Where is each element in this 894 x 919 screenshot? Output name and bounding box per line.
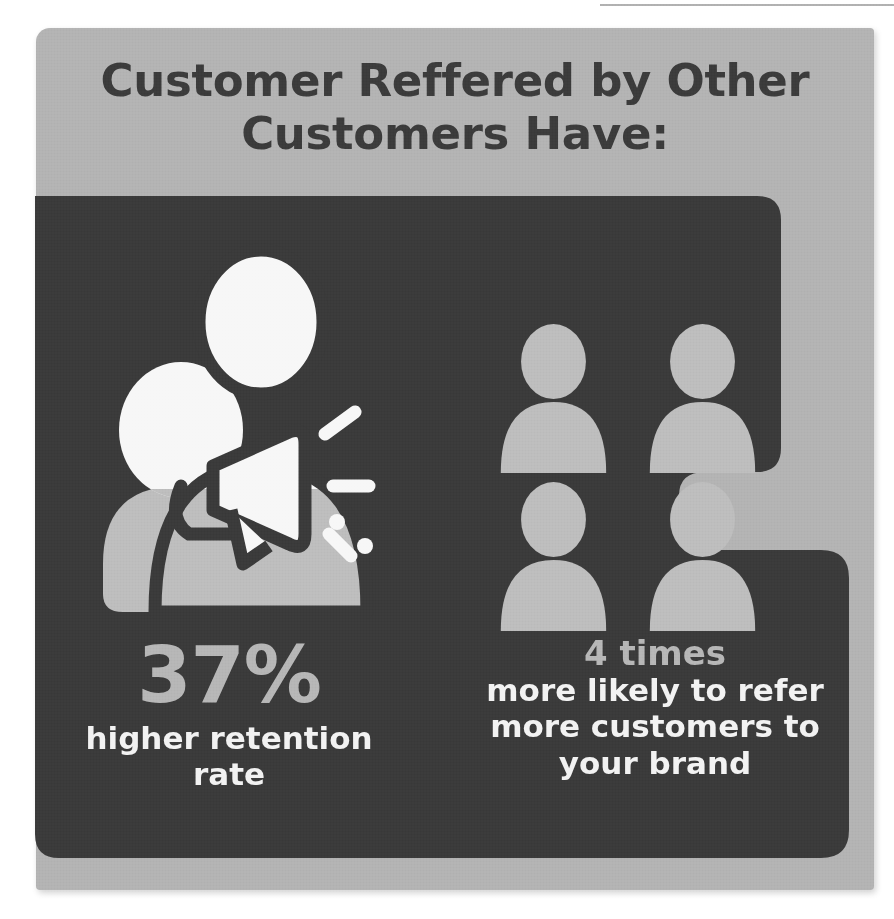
stat-value-referral: 4 times — [467, 636, 843, 670]
stat-caption-line: your brand — [467, 745, 843, 781]
word-of-mouth-megaphone-icon — [93, 234, 403, 629]
four-people-grid-icon — [488, 321, 768, 631]
stat-caption-line: rate — [41, 756, 417, 792]
stat-referral: 4 times more likely to refer more custom… — [457, 636, 851, 781]
stat-caption-line: higher retention — [41, 720, 417, 756]
infographic-root: Customer Reffered by Other Customers Hav… — [0, 0, 894, 919]
stat-value-retention: 37% — [41, 636, 417, 714]
person-icon — [488, 321, 619, 473]
scan-artifact-line — [600, 4, 894, 6]
person-icon — [488, 479, 619, 631]
stat-caption-line: more customers to — [467, 708, 843, 744]
person-icon — [637, 321, 768, 473]
person-icon — [637, 479, 768, 631]
stats-row: 37% higher retention rate 4 times more l… — [33, 636, 851, 793]
page-title: Customer Reffered by Other Customers Hav… — [75, 55, 835, 160]
header-band: Customer Reffered by Other Customers Hav… — [36, 28, 874, 188]
icons-row — [33, 186, 851, 626]
stat-caption-line: more likely to refer — [467, 672, 843, 708]
card-content: 37% higher retention rate 4 times more l… — [33, 186, 851, 860]
stat-caption-referral: more likely to refer more customers to y… — [467, 672, 843, 781]
stat-retention: 37% higher retention rate — [33, 636, 457, 793]
stat-caption-retention: higher retention rate — [41, 720, 417, 793]
